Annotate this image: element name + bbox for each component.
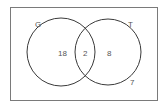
set-g-label: G: [35, 20, 41, 29]
venn-diagram: G T 18 2 8 7: [0, 0, 160, 108]
t-only-count: 8: [107, 49, 112, 58]
intersection-count: 2: [83, 49, 88, 58]
g-only-count: 18: [58, 49, 67, 58]
outside-count: 7: [130, 78, 135, 87]
set-t-label: T: [128, 20, 133, 29]
